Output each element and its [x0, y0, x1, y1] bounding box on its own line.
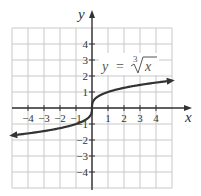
curve-arrowhead-icon [166, 78, 174, 85]
equation-label: y = 3 x [99, 53, 159, 75]
radical-index: 3 [133, 54, 138, 64]
y-tick-label: 3 [83, 54, 89, 66]
curve-arrowhead-icon [9, 131, 17, 138]
y-tick-label: 4 [83, 38, 89, 50]
y-tick-label: −4 [76, 166, 88, 178]
equation-radicand: x [144, 59, 152, 74]
x-tick-label: −4 [22, 112, 34, 124]
y-axis-arrow-icon [89, 10, 95, 18]
x-tick-label: −3 [38, 112, 50, 124]
equation-equals: = [116, 59, 124, 74]
y-tick-label: −2 [76, 134, 88, 146]
x-tick-label: 1 [105, 112, 111, 124]
equation-lhs: y [100, 59, 109, 74]
y-tick-label: −3 [76, 150, 88, 162]
y-tick-label: 2 [83, 70, 89, 82]
x-tick-label: −2 [54, 112, 66, 124]
cube-root-graph: −4−3−2−11234−4−3−2−11234 x y y = 3 x [0, 0, 201, 196]
x-tick-label: 2 [121, 112, 127, 124]
x-tick-label: 4 [153, 112, 159, 124]
y-tick-label: 1 [83, 86, 89, 98]
x-tick-label: 3 [137, 112, 143, 124]
y-axis-label: y [76, 6, 85, 22]
axes [12, 10, 192, 190]
x-axis-label: x [184, 109, 192, 125]
